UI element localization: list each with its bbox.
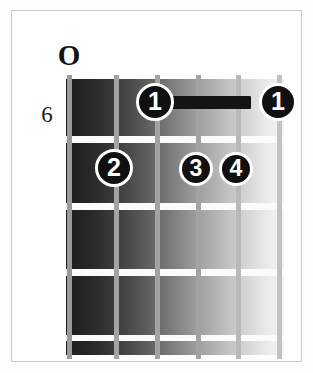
string-1 [67, 75, 72, 359]
finger-dot-3[interactable]: 3 [179, 152, 213, 186]
open-string-marker: O [55, 38, 83, 72]
finger-dot-1b[interactable]: 1 [259, 83, 297, 121]
string-5 [236, 75, 241, 359]
finger-dot-label: 2 [107, 155, 121, 180]
finger-dot-1a[interactable]: 1 [136, 83, 174, 121]
fret-line-4 [66, 335, 284, 341]
fret-line-3 [66, 269, 284, 276]
diagram-frame: O 6 1 1 2 3 [11, 10, 302, 362]
fret-line-2 [66, 203, 284, 210]
finger-dot-label: 1 [271, 89, 285, 114]
finger-dot-label: 1 [148, 89, 162, 114]
finger-dot-label: 4 [230, 157, 243, 180]
fret-line-1 [66, 136, 284, 143]
string-4 [196, 75, 201, 359]
finger-dot-label: 3 [190, 157, 203, 180]
finger-dot-2[interactable]: 2 [95, 149, 133, 187]
finger-dot-4[interactable]: 4 [219, 152, 253, 186]
fret-position-label: 6 [34, 99, 60, 129]
chord-diagram-page: O 6 1 1 2 3 [0, 0, 313, 373]
fretboard [66, 79, 284, 355]
string-2 [114, 75, 119, 359]
